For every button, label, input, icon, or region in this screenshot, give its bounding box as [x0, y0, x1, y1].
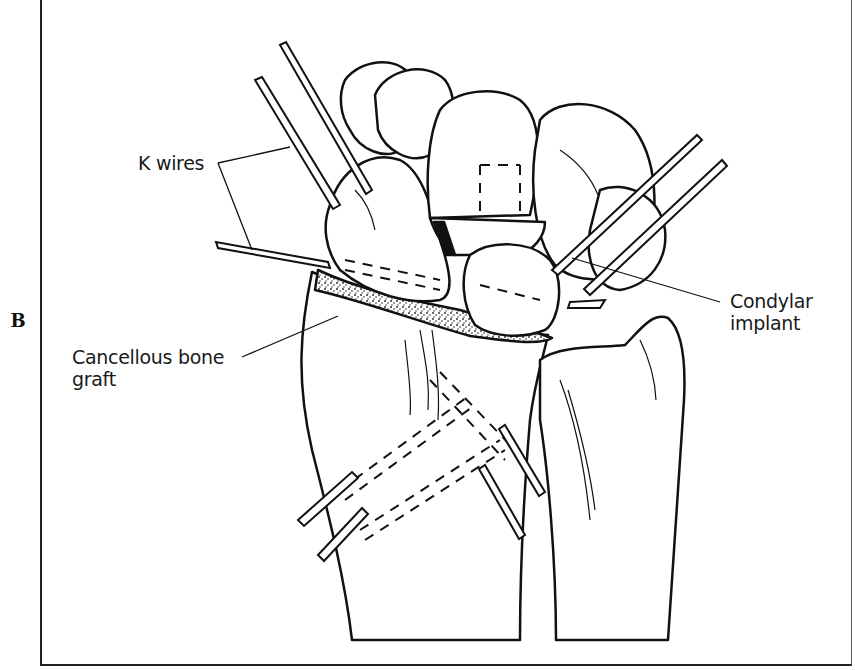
k-wire-2 [255, 77, 340, 209]
leader-k-wires-upper [218, 147, 290, 163]
wrist-illustration [0, 0, 855, 670]
label-k-wires: K wires [138, 152, 204, 174]
k-wire-3 [216, 242, 330, 268]
k-wire-6 [568, 300, 605, 308]
leader-k-wires-lower [218, 163, 252, 250]
label-condylar-implant-line1: Condylar [730, 290, 813, 312]
carpal-lunate [464, 244, 559, 335]
label-condylar-implant-line2: implant [730, 312, 800, 334]
ulna-bone [540, 317, 684, 640]
label-cancellous-line2: graft [72, 368, 116, 390]
carpal-capitate [428, 91, 539, 218]
label-cancellous-line1: Cancellous bone [72, 346, 224, 368]
